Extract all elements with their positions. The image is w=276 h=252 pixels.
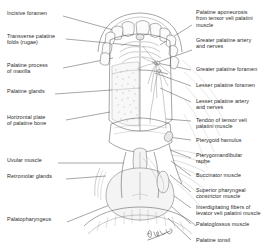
- mandibular-teeth-arcade: [84, 207, 196, 234]
- label-palatine-tonsil[interactable]: Palatine tonsil: [196, 237, 230, 243]
- label-palatine-process-of-maxilla[interactable]: Palatine process of maxilla: [7, 62, 48, 75]
- label-pterygoid-hamulus[interactable]: Pterygoid hamulus: [196, 137, 242, 143]
- label-horizontal-plate-of-palatine-bone[interactable]: Horizontal plate of palatine bone: [7, 114, 46, 127]
- label-greater-palatine-artery-and-nerves[interactable]: Greater palatine artery and nerves: [196, 37, 251, 50]
- aponeurosis-fibers: [114, 125, 167, 134]
- label-palatine-aponeurosis[interactable]: Palatine aponeurosis from tensor veli pa…: [196, 9, 253, 28]
- label-superior-pharyngeal-constrictor-muscle[interactable]: Superior pharyngeal constrictor muscle: [196, 187, 246, 200]
- label-lesser-palatine-artery-and-nerves[interactable]: Lesser palatine artery and nerves: [196, 98, 249, 111]
- label-pterygomandibular-raphe[interactable]: Pterygomandibular raphe: [196, 152, 242, 165]
- label-palatine-glands[interactable]: Palatine glands: [7, 88, 45, 94]
- incisive-foramen-shape: [136, 34, 144, 40]
- label-buccinator-muscle[interactable]: Buccinator muscle: [196, 172, 241, 178]
- retromolar-glands-region: [95, 168, 106, 200]
- palatine-neurovascular-bundle: [137, 46, 171, 128]
- leader-horizontal-plate: [66, 112, 110, 120]
- artist-signature: [148, 229, 172, 240]
- label-greater-palatine-foramen[interactable]: Greater palatine foramen: [196, 66, 257, 72]
- label-uvular-muscle[interactable]: Uvular muscle: [7, 157, 42, 163]
- label-incisive-foramen[interactable]: Incisive foramen: [7, 10, 47, 16]
- palatine-tonsil-shape: [157, 171, 169, 193]
- label-palatoglossus-muscle[interactable]: Palatoglossus muscle: [196, 221, 249, 227]
- leader-lesser-palatine-foramen: [155, 73, 191, 86]
- label-palatopharyngeus[interactable]: Palatopharyngeus: [7, 216, 51, 222]
- label-transverse-palatine-folds[interactable]: Transverse palatine folds (rugae): [7, 33, 55, 46]
- label-tendon-of-tensor-veli-palatini-muscle[interactable]: Tendon of tensor veli palatini muscle: [196, 117, 247, 130]
- label-retromolar-glands[interactable]: Retromolar glands: [7, 173, 52, 179]
- leader-lesser-palatine-artery: [160, 88, 191, 102]
- label-interdigitating-fibers-of-levator-veli-palatini-muscle[interactable]: Interdigitating fibers of levator veli p…: [196, 204, 260, 217]
- label-lesser-palatine-foramen[interactable]: Lesser palatine foramen: [196, 82, 255, 88]
- leader-pterygomandibular-raphe: [170, 150, 191, 158]
- palatine-aponeurosis-shape: [109, 118, 172, 152]
- palatine-glands-region: [112, 62, 139, 126]
